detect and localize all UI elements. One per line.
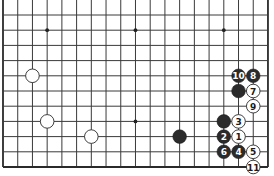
- white-stone-7: 7: [246, 84, 260, 98]
- black-stone: [232, 84, 246, 98]
- move-number: 3: [235, 117, 241, 127]
- move-number: 6: [221, 147, 227, 157]
- move-number: 1: [235, 132, 241, 142]
- black-stone-6: 6: [217, 145, 231, 159]
- move-number: 4: [235, 147, 241, 157]
- move-number: 8: [250, 71, 256, 81]
- white-stone: [85, 130, 99, 144]
- move-number: 5: [250, 147, 256, 157]
- white-stone-5: 5: [246, 145, 260, 159]
- white-stone-disc: [85, 130, 99, 144]
- black-stone-disc: [173, 130, 187, 144]
- star-point: [45, 28, 49, 32]
- black-stone-2: 2: [217, 130, 231, 144]
- move-number: 2: [221, 132, 227, 142]
- white-stone-disc: [40, 115, 54, 129]
- black-stone-4: 4: [232, 145, 246, 159]
- white-stone: [40, 115, 54, 129]
- star-point: [134, 28, 138, 32]
- move-number: 9: [250, 102, 256, 112]
- black-stone: [173, 130, 187, 144]
- star-point: [222, 28, 226, 32]
- black-stone-10: 10: [232, 69, 246, 83]
- white-stone-disc: [26, 69, 40, 83]
- move-number: 7: [250, 87, 256, 97]
- move-number: 10: [232, 71, 245, 81]
- white-stone-11: 11: [246, 160, 260, 174]
- white-stone-3: 3: [232, 115, 246, 129]
- black-stone-disc: [217, 115, 231, 129]
- move-number: 11: [247, 163, 260, 173]
- white-stone: [26, 69, 40, 83]
- star-point: [134, 120, 138, 124]
- go-board: 1087932164511: [0, 0, 274, 176]
- black-stone-8: 8: [246, 69, 260, 83]
- black-stone: [217, 115, 231, 129]
- black-stone-disc: [232, 84, 246, 98]
- white-stone-9: 9: [246, 99, 260, 113]
- white-stone-1: 1: [232, 130, 246, 144]
